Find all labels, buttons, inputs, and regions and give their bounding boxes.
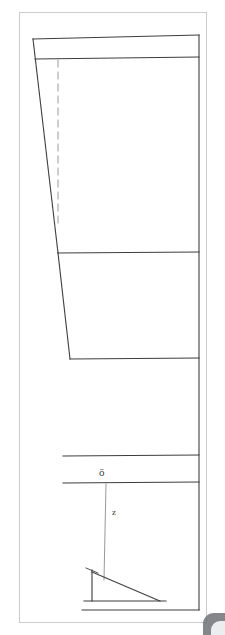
left-taper-upper [33, 39, 58, 253]
hanging-line [104, 484, 106, 580]
divider-2 [70, 358, 199, 359]
divider-3 [63, 455, 199, 456]
label-sigma: ō [99, 467, 105, 478]
page-curl-inner [211, 621, 225, 635]
screenshot-canvas: ō z [0, 0, 225, 635]
divider-4 [63, 482, 199, 483]
top-edge [33, 35, 199, 39]
divider-1 [58, 252, 199, 253]
page-curl-corner [203, 613, 225, 635]
label-n: z [112, 508, 116, 517]
second-horizontal [35, 57, 199, 59]
technical-drawing [0, 0, 225, 635]
left-taper-lower [58, 253, 70, 359]
triangle-hypotenuse [92, 572, 160, 601]
